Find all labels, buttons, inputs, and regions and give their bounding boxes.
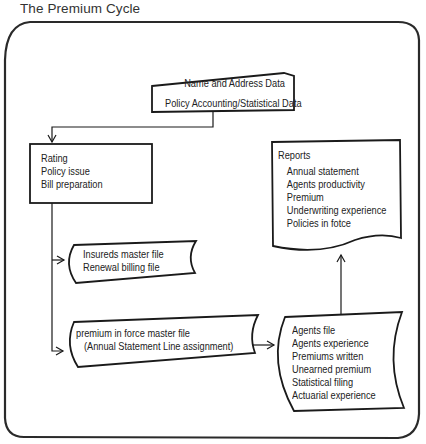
agents-line: Agents file bbox=[292, 324, 376, 337]
reports-line: Agents productivity bbox=[287, 178, 387, 191]
process-line: Policy issue bbox=[41, 165, 103, 178]
edge-process-trunk bbox=[52, 203, 63, 351]
agents-file-node: Agents file Agents experience Premiums w… bbox=[292, 324, 376, 402]
process-line: Rating bbox=[41, 152, 103, 165]
agents-line: Actuarial experience bbox=[292, 389, 376, 402]
reports-line: Premium bbox=[287, 191, 387, 204]
reports-line: Underwriting experience bbox=[287, 204, 387, 217]
insureds-line: Insureds master file bbox=[83, 248, 164, 261]
agents-line: Statistical filing bbox=[292, 376, 376, 389]
reports-line: Policies in fotce bbox=[287, 217, 387, 230]
input-node: Name and Address Data Policy Accounting/… bbox=[165, 77, 297, 110]
premium-line: premium in force master file bbox=[76, 327, 233, 340]
reports-line: Annual statement bbox=[287, 165, 387, 178]
insureds-file-node: Insureds master file Renewal billing fil… bbox=[83, 248, 164, 274]
agents-line: Premiums written bbox=[292, 350, 376, 363]
input-line: Name and Address Data bbox=[172, 77, 297, 90]
edge-input-to-process bbox=[52, 111, 213, 142]
process-node: Rating Policy issue Bill preparation bbox=[41, 152, 103, 191]
input-line: Policy Accounting/Statistical Data bbox=[165, 97, 297, 110]
insureds-line: Renewal billing file bbox=[83, 261, 164, 274]
premium-file-node: premium in force master file (Annual Sta… bbox=[76, 327, 233, 353]
premium-line: (Annual Statement Line assignment) bbox=[84, 340, 233, 353]
reports-heading: Reports bbox=[278, 149, 386, 162]
process-line: Bill preparation bbox=[41, 178, 103, 191]
agents-line: Unearned premium bbox=[292, 363, 376, 376]
reports-node: Reports Annual statement Agents producti… bbox=[278, 149, 386, 230]
agents-line: Agents experience bbox=[292, 337, 376, 350]
